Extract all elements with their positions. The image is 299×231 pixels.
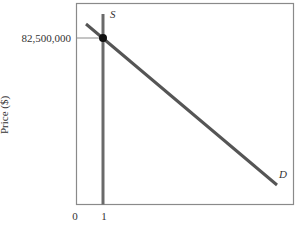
supply-demand-chart: 82,500,000 S D 0 1 Price ($) [0,0,299,231]
supply-label: S [110,8,116,20]
price-tick-label: 82,500,000 [22,32,72,44]
x-tick-0: 0 [72,210,78,222]
demand-curve [86,24,277,185]
x-tick-1: 1 [101,210,107,222]
y-axis-label: Price ($) [0,96,11,135]
plot-frame [77,4,294,205]
demand-label: D [278,168,287,180]
equilibrium-point [99,34,107,42]
